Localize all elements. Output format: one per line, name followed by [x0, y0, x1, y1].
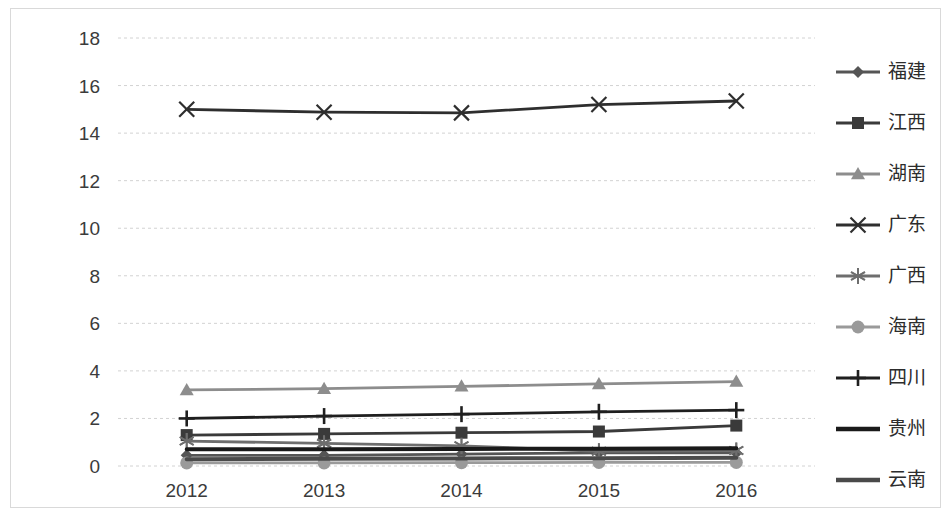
x-axis-tick-labels: 20122013201420152016: [166, 480, 758, 501]
data-point-marker: [852, 66, 864, 78]
y-axis-tick-label: 16: [79, 76, 100, 97]
x-axis-tick-label: 2016: [715, 480, 757, 501]
data-point-marker: [852, 321, 865, 334]
y-axis-tick-label: 8: [89, 266, 100, 287]
data-point-marker: [179, 410, 195, 426]
x-axis-tick-label: 2012: [166, 480, 208, 501]
data-point-marker: [593, 426, 605, 438]
legend-item[interactable]: 江西: [836, 112, 926, 133]
legend-item[interactable]: 广西: [836, 265, 926, 286]
legend-item[interactable]: 贵州: [836, 418, 926, 439]
legend-label: 四川: [888, 367, 926, 388]
legend-item[interactable]: 湖南: [836, 163, 926, 184]
y-axis-tick-label: 2: [89, 408, 100, 429]
legend-label: 海南: [888, 316, 926, 337]
y-axis-tick-label: 14: [79, 123, 101, 144]
data-point-marker: [456, 427, 468, 439]
legend-label: 江西: [888, 112, 926, 133]
chart-legend: 福建江西湖南广东广西海南四川贵州云南: [836, 61, 926, 490]
data-point-marker: [454, 406, 470, 422]
series-line: [187, 458, 737, 460]
data-series: [187, 458, 737, 460]
legend-label: 湖南: [888, 163, 926, 184]
data-point-marker: [852, 117, 864, 129]
x-axis-tick-label: 2015: [578, 480, 620, 501]
data-series: [180, 375, 744, 396]
series-line: [187, 101, 737, 113]
legend-label: 云南: [888, 469, 926, 490]
data-series: [179, 402, 745, 426]
y-axis-tick-labels: 024681012141618: [79, 28, 101, 477]
data-point-marker: [728, 402, 744, 418]
y-axis-tick-label: 4: [89, 361, 100, 382]
data-series: [179, 94, 744, 121]
chart-screenshot: 024681012141618 20122013201420152016 福建江…: [0, 0, 951, 516]
legend-label: 贵州: [888, 418, 926, 439]
legend-item[interactable]: 福建: [836, 61, 926, 82]
data-point-marker: [730, 420, 742, 432]
legend-label: 福建: [888, 61, 926, 82]
y-axis-tick-label: 12: [79, 171, 100, 192]
y-axis-tick-label: 0: [89, 456, 100, 477]
data-point-marker: [591, 404, 607, 420]
legend-item[interactable]: 四川: [836, 367, 926, 388]
legend-label: 广东: [888, 214, 926, 235]
y-axis-tick-label: 10: [79, 218, 100, 239]
y-axis-tick-label: 6: [89, 313, 100, 334]
data-series-group: [179, 94, 745, 470]
line-chart: 024681012141618 20122013201420152016 福建江…: [0, 0, 951, 516]
legend-item[interactable]: 海南: [836, 316, 926, 337]
data-point-marker: [316, 408, 332, 424]
x-axis-tick-label: 2013: [303, 480, 345, 501]
legend-item[interactable]: 广东: [836, 214, 926, 235]
x-axis-tick-label: 2014: [440, 480, 483, 501]
data-point-marker: [850, 370, 866, 386]
series-line: [187, 448, 737, 449]
legend-label: 广西: [888, 265, 926, 286]
legend-item[interactable]: 云南: [836, 469, 926, 490]
y-axis-tick-label: 18: [79, 28, 100, 49]
data-series: [187, 448, 737, 449]
